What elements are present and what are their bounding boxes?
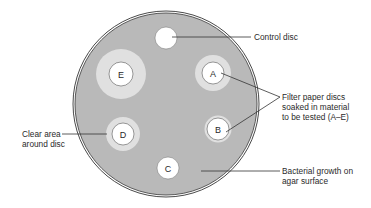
disc-b-letter: B [215, 125, 221, 135]
growth-label-line-2: agar surface [282, 176, 353, 186]
control-disc [155, 27, 177, 49]
disc-c-letter: C [165, 164, 172, 174]
filter-discs-label: Filter paper discs soaked in material to… [282, 92, 349, 122]
disc-e-letter: E [118, 70, 124, 80]
filter-label-line-1: Filter paper discs [282, 92, 349, 102]
filter-label-line-2: soaked in material [282, 102, 349, 112]
filter-label-line-3: to be tested (A–E) [282, 112, 349, 122]
disc-d-letter: D [120, 130, 127, 140]
clear-area-label: Clear area around disc [22, 129, 65, 149]
bacterial-growth-label: Bacterial growth on agar surface [282, 166, 353, 186]
growth-label-line-1: Bacterial growth on [282, 166, 353, 176]
clear-area-label-line-1: Clear area [22, 129, 65, 139]
disc-a-letter: A [210, 69, 216, 79]
clear-area-label-line-2: around disc [22, 139, 65, 149]
control-disc-label: Control disc [254, 32, 298, 42]
